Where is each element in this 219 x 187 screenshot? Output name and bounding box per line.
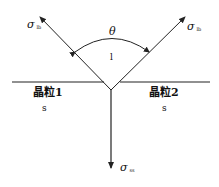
- left-grain-label: 晶粒1: [33, 83, 63, 99]
- sigma-symbol: σ: [187, 20, 195, 33]
- tension-down-label: σss: [120, 161, 135, 174]
- angle-arc: [75, 39, 149, 53]
- sigma-symbol: σ: [27, 18, 35, 31]
- right-grain-label: 晶粒2: [149, 83, 179, 99]
- subscript: lb: [197, 26, 202, 32]
- tension-right-label: σlb: [187, 20, 201, 33]
- sigma-symbol: σ: [120, 161, 128, 174]
- tension-right-arrow: [111, 17, 185, 90]
- tension-left-label: σlb: [27, 18, 41, 31]
- left-grain-phase: s: [42, 103, 47, 113]
- angle-label: θ: [109, 25, 116, 38]
- subscript: ss: [130, 167, 135, 173]
- subscript: lb: [37, 24, 42, 30]
- right-grain-phase: s: [162, 103, 167, 113]
- liquid-phase-label: l: [110, 52, 113, 62]
- tension-left-arrow: [40, 17, 111, 90]
